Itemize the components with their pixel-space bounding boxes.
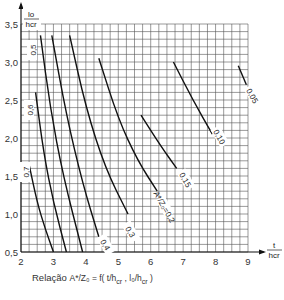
nomogram-chart: 234567890,51,01,52,02,53,03,5lohcrthcr0,…	[0, 0, 284, 300]
label-0-05: 0,05	[243, 84, 262, 107]
y-tick-label: 1,5	[5, 171, 18, 182]
x-axis-title-denominator: hcr	[268, 251, 279, 260]
x-tick-label: 9	[245, 256, 250, 267]
label-0-5: 0,5	[27, 40, 38, 60]
x-tick-label: 7	[180, 256, 185, 267]
curve-0.10	[173, 62, 212, 134]
label-0-15: 0,15	[176, 168, 195, 191]
y-axis-title-denominator: hcr	[25, 20, 36, 29]
curve-0.7	[29, 165, 53, 252]
x-tick-label: 6	[148, 256, 153, 267]
y-tick-label: 1,0	[5, 209, 18, 220]
label-0-10: 0,10	[210, 125, 229, 148]
caption-prefix: Relação	[32, 272, 67, 283]
svg-text:0,6: 0,6	[26, 104, 35, 116]
x-tick-label: 8	[213, 256, 218, 267]
y-tick-label: 3,5	[5, 19, 18, 30]
label-0-6: 0,6	[24, 100, 35, 120]
y-tick-label: 3,0	[5, 57, 18, 68]
caption-formula: A*/Z₀ = f( t/hcr , l₀/hcr )	[70, 273, 153, 283]
y-axis-arrow-icon	[19, 2, 24, 9]
x-tick-label: 2	[18, 256, 23, 267]
label-0-3: 0,3	[121, 220, 140, 243]
label-0-7: 0,7	[20, 162, 31, 182]
x-tick-label: 3	[51, 256, 56, 267]
label-0-2: A*/Z₀=0,2	[151, 189, 178, 225]
x-tick-label: 4	[83, 256, 88, 267]
x-axis-arrow-icon	[259, 250, 266, 255]
svg-text:A*/Z₀=0,2: A*/Z₀=0,2	[151, 190, 176, 225]
svg-text:0,5: 0,5	[29, 44, 38, 56]
x-tick-label: 5	[116, 256, 121, 267]
y-tick-label: 0,5	[5, 247, 18, 258]
y-axis-title-numerator: lo	[28, 10, 35, 19]
chart-caption: Relação A*/Z₀ = f( t/hcr , l₀/hcr )	[32, 272, 153, 286]
grid	[21, 24, 248, 252]
y-tick-label: 2,5	[5, 95, 18, 106]
y-tick-label: 2,0	[5, 133, 18, 144]
svg-text:0,7: 0,7	[22, 166, 31, 178]
curve-0.05	[238, 66, 246, 85]
